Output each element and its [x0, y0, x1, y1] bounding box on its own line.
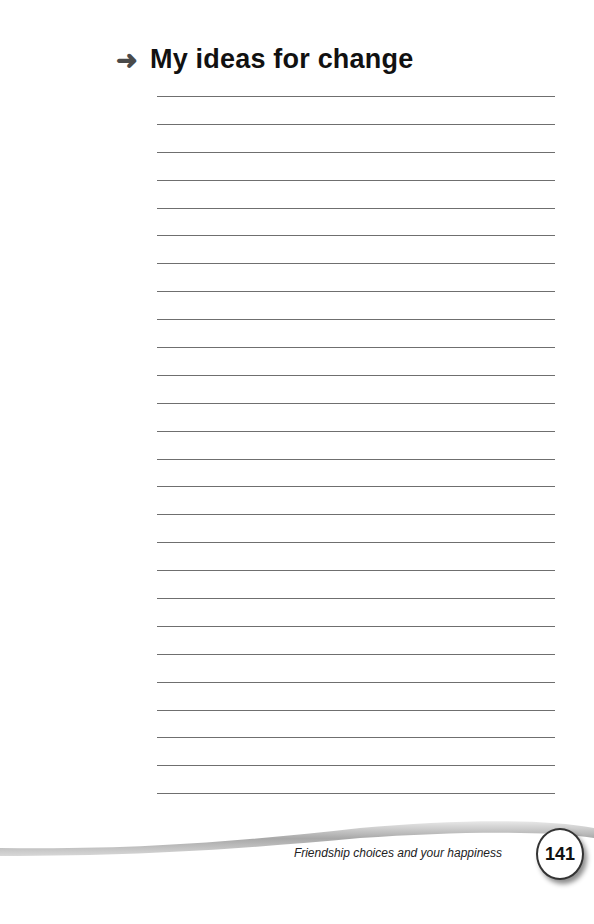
writing-line [157, 737, 555, 738]
running-footer: Friendship choices and your happiness [294, 846, 502, 860]
writing-line [157, 710, 555, 711]
writing-line [157, 542, 555, 543]
writing-line [157, 431, 555, 432]
writing-line [157, 403, 555, 404]
writing-line [157, 291, 555, 292]
writing-lines [157, 96, 555, 821]
writing-line [157, 235, 555, 236]
writing-line [157, 208, 555, 209]
writing-line [157, 765, 555, 766]
page-title: My ideas for change [150, 44, 413, 75]
writing-line [157, 347, 555, 348]
arrow-right-icon: ➜ [116, 47, 138, 73]
writing-line [157, 682, 555, 683]
writing-line [157, 793, 555, 794]
writing-line [157, 626, 555, 627]
page-number-badge: 141 [536, 828, 584, 880]
writing-line [157, 96, 555, 97]
section-heading: ➜ My ideas for change [116, 44, 413, 75]
writing-line [157, 124, 555, 125]
writing-line [157, 570, 555, 571]
writing-line [157, 514, 555, 515]
writing-line [157, 319, 555, 320]
writing-line [157, 598, 555, 599]
writing-line [157, 654, 555, 655]
writing-line [157, 486, 555, 487]
writing-line [157, 375, 555, 376]
writing-line [157, 180, 555, 181]
writing-line [157, 152, 555, 153]
writing-line [157, 263, 555, 264]
writing-line [157, 459, 555, 460]
